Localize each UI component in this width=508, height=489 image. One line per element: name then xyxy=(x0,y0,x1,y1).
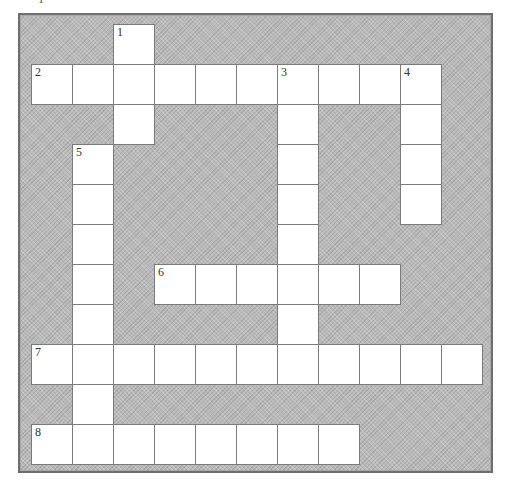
crossword-cell[interactable]: 3 xyxy=(277,64,319,105)
crossword-cell[interactable]: 1 xyxy=(113,24,155,65)
crossword-cell[interactable] xyxy=(236,424,278,465)
crossword-cell[interactable] xyxy=(72,64,114,105)
crossword-cell[interactable] xyxy=(236,344,278,385)
crossword-cell[interactable] xyxy=(195,344,237,385)
clue-number: 5 xyxy=(76,146,82,159)
crossword-cell[interactable] xyxy=(277,264,319,305)
crossword-cell[interactable] xyxy=(359,264,401,305)
crossword-cell[interactable] xyxy=(154,64,196,105)
crossword-cell[interactable] xyxy=(277,304,319,345)
crossword-cell[interactable]: 7 xyxy=(31,344,73,385)
crossword-cell[interactable]: 8 xyxy=(31,424,73,465)
crossword-cell[interactable] xyxy=(318,64,360,105)
crossword-cell[interactable] xyxy=(195,264,237,305)
clue-number: 1 xyxy=(117,26,123,39)
crossword-cell[interactable] xyxy=(195,64,237,105)
crossword-cell[interactable] xyxy=(400,184,442,225)
crossword-cell[interactable] xyxy=(277,104,319,145)
crossword-cell[interactable] xyxy=(154,344,196,385)
crossword-grid: 12345678 xyxy=(0,0,508,489)
crossword-cell[interactable]: 2 xyxy=(31,64,73,105)
crossword-cell[interactable]: 5 xyxy=(72,144,114,185)
crossword-cell[interactable]: 4 xyxy=(400,64,442,105)
crossword-cell[interactable] xyxy=(113,424,155,465)
crossword-cell[interactable]: 6 xyxy=(154,264,196,305)
crossword-cell[interactable] xyxy=(277,344,319,385)
crossword-cell[interactable] xyxy=(72,384,114,425)
crossword-cell[interactable] xyxy=(154,424,196,465)
clue-number: 6 xyxy=(158,266,164,279)
crossword-cell[interactable] xyxy=(318,424,360,465)
crossword-cell[interactable] xyxy=(400,344,442,385)
crossword-cell[interactable] xyxy=(277,224,319,265)
crossword-cell[interactable] xyxy=(400,104,442,145)
crossword-cell[interactable] xyxy=(236,64,278,105)
crossword-cell[interactable] xyxy=(113,104,155,145)
crossword-cell[interactable] xyxy=(72,424,114,465)
crossword-cell[interactable] xyxy=(113,344,155,385)
clue-number: 4 xyxy=(404,66,410,79)
crossword-cell[interactable] xyxy=(441,344,483,385)
crossword-cell[interactable] xyxy=(359,64,401,105)
crossword-cell[interactable] xyxy=(277,424,319,465)
crossword-cell[interactable] xyxy=(359,344,401,385)
clue-number: 3 xyxy=(281,66,287,79)
crossword-cell[interactable] xyxy=(277,144,319,185)
crossword-cell[interactable] xyxy=(400,144,442,185)
crossword-cell[interactable] xyxy=(236,264,278,305)
clue-number: 7 xyxy=(35,346,41,359)
crossword-cell[interactable] xyxy=(72,224,114,265)
crossword-cell[interactable] xyxy=(113,64,155,105)
crossword-cell[interactable] xyxy=(277,184,319,225)
crossword-cell[interactable] xyxy=(72,184,114,225)
crossword-cell[interactable] xyxy=(318,344,360,385)
clue-number: 8 xyxy=(35,426,41,439)
crossword-cell[interactable] xyxy=(195,424,237,465)
crossword-cell[interactable] xyxy=(72,264,114,305)
crossword-cell[interactable] xyxy=(72,304,114,345)
crossword-cell[interactable] xyxy=(72,344,114,385)
clue-number: 2 xyxy=(35,66,41,79)
crossword-cell[interactable] xyxy=(318,264,360,305)
